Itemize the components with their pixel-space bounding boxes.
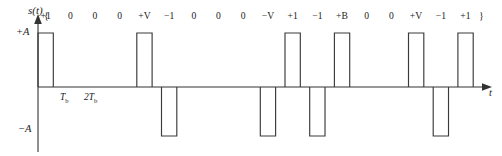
time-tick-label: Tb <box>60 92 69 104</box>
pulse <box>310 87 325 136</box>
symbol-label: −1 <box>305 11 330 21</box>
time-axis-label: t <box>489 88 492 99</box>
symbol-label: +B <box>330 11 355 21</box>
symbol-label: 0 <box>231 11 256 21</box>
pulse-train <box>38 33 473 136</box>
symbol-label: 0 <box>107 11 132 21</box>
waveform-figure: s(t) +A −A t { } +1000+V−1000−V+1−1+B00+… <box>0 0 502 156</box>
symbol-label: +1 <box>453 11 478 21</box>
pulse <box>458 33 473 87</box>
pulse <box>409 33 424 87</box>
symbol-label: +1 <box>280 11 305 21</box>
pulse <box>162 87 177 136</box>
symbol-label: 0 <box>83 11 108 21</box>
time-tick-subscript: b <box>65 97 68 104</box>
pulse <box>38 33 53 87</box>
symbol-label: +1 <box>33 11 58 21</box>
symbol-label: +V <box>404 11 429 21</box>
time-tick-label: 2Tb <box>84 92 97 104</box>
symbol-label: +V <box>132 11 157 21</box>
pulse <box>285 33 300 87</box>
symbol-label: −1 <box>157 11 182 21</box>
pulse <box>433 87 448 136</box>
time-tick-text: 2T <box>84 92 94 102</box>
symbol-label: 0 <box>354 11 379 21</box>
waveform-svg <box>0 0 502 156</box>
symbol-label: 0 <box>182 11 207 21</box>
symbol-label: 0 <box>379 11 404 21</box>
sequence-close-brace: } <box>479 11 484 21</box>
pulse <box>260 87 275 136</box>
symbol-label: 0 <box>58 11 83 21</box>
positive-amplitude-label: +A <box>16 27 30 38</box>
symbol-label: −V <box>256 11 281 21</box>
symbol-label: −1 <box>429 11 454 21</box>
negative-amplitude-label: −A <box>18 124 32 135</box>
pulse <box>137 33 152 87</box>
pulse <box>334 33 349 87</box>
symbol-label: 0 <box>206 11 231 21</box>
time-tick-subscript: b <box>94 97 97 104</box>
